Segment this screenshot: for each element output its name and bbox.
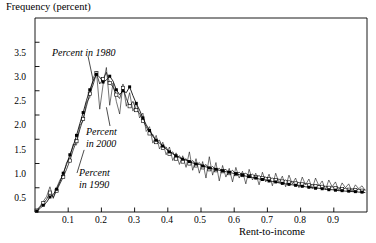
x-tick-label-0: 0.1 bbox=[56, 215, 80, 225]
series-percent-in-1980 bbox=[35, 73, 365, 213]
x-tick-label-5: 0.6 bbox=[222, 215, 246, 225]
annotation-percent-1990-line2: in 1990 bbox=[79, 179, 109, 191]
y-tick-label-5: 3.0 bbox=[4, 72, 26, 82]
annotation-percent-2000-line1: Percent bbox=[86, 126, 117, 138]
y-tick-label-2: 1.5 bbox=[4, 145, 26, 155]
chart-figure: Frequency (percent) Rent-to-income 0.5 1… bbox=[0, 0, 376, 243]
x-axis-title: Rent-to-income bbox=[239, 226, 305, 238]
annotation-percent-1990-line1: Percent bbox=[79, 167, 110, 179]
x-tick-label-7: 0.8 bbox=[288, 215, 312, 225]
x-tick-label-8: 0.9 bbox=[321, 215, 345, 225]
y-tick-label-3: 2.0 bbox=[4, 120, 26, 130]
plot-canvas bbox=[0, 0, 376, 243]
y-tick-label-0: 0.5 bbox=[4, 193, 26, 203]
x-tick-label-1: 0.2 bbox=[89, 215, 113, 225]
y-tick-label-6: 3.5 bbox=[4, 48, 26, 58]
x-tick-label-6: 0.7 bbox=[255, 215, 279, 225]
y-tick-label-4: 2.5 bbox=[4, 96, 26, 106]
x-tick-label-4: 0.5 bbox=[188, 215, 212, 225]
series-percent-in-1990 bbox=[35, 72, 365, 212]
y-axis-title: Frequency (percent) bbox=[6, 1, 91, 13]
annotation-percent-2000-line2: in 2000 bbox=[86, 138, 116, 150]
x-tick-label-2: 0.3 bbox=[122, 215, 146, 225]
annotation-percent-1980: Percent in 1980 bbox=[52, 47, 116, 59]
x-tick-label-3: 0.4 bbox=[155, 215, 179, 225]
y-tick-label-1: 1.0 bbox=[4, 169, 26, 179]
